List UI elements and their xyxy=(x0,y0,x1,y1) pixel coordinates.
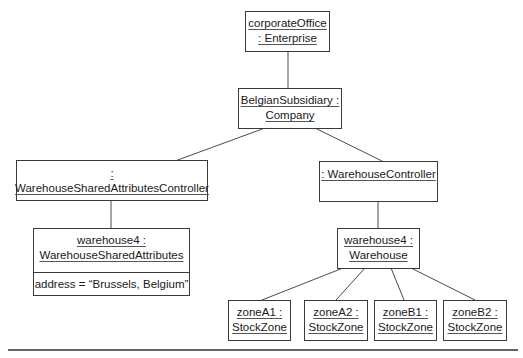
link-warehouse-to-zoneA2 xyxy=(336,268,365,300)
object-warehouse-shared-attributes: warehouse4 : WarehouseSharedAttributes a… xyxy=(33,228,190,296)
object-name: zoneB1 : xyxy=(378,305,433,320)
object-name: warehouse4 : xyxy=(39,233,183,248)
object-zone-b2: zoneB2 : StockZone xyxy=(443,300,507,341)
object-class: StockZone xyxy=(448,320,503,335)
link-warehouse-to-zoneB1 xyxy=(391,268,404,300)
object-class: Warehouse xyxy=(344,248,413,263)
object-name: warehouse4 : xyxy=(344,233,413,248)
link-warehouse-to-zoneB2 xyxy=(411,268,475,300)
object-warehouse-controller: : WarehouseController xyxy=(319,161,438,202)
object-belgian-subsidiary: BelgianSubsidiary : Company xyxy=(238,88,342,129)
object-warehouse: warehouse4 : Warehouse xyxy=(337,228,420,269)
object-corporate-office: corporateOffice : Enterprise xyxy=(245,11,330,52)
object-name: zoneB2 : xyxy=(448,305,503,320)
object-zone-a2: zoneA2 : StockZone xyxy=(304,300,368,341)
object-name: corporateOffice xyxy=(248,16,326,31)
object-class: StockZone xyxy=(309,320,364,335)
object-class: : Enterprise xyxy=(248,31,326,46)
object-name: zoneA1 : xyxy=(232,305,287,320)
link-warehouse-to-zoneA1 xyxy=(262,268,343,300)
object-shared-attributes-controller: : WarehouseSharedAttributesController xyxy=(16,160,208,201)
link-subsidiary-to-warehouse-controller xyxy=(315,128,382,161)
object-zone-b1: zoneB1 : StockZone xyxy=(374,300,437,341)
object-name: : WarehouseController xyxy=(321,167,436,182)
object-name: : WarehouseSharedAttributesController xyxy=(15,166,209,196)
object-name: BelgianSubsidiary : xyxy=(241,93,339,108)
object-class: WarehouseSharedAttributes xyxy=(39,248,183,263)
object-class: StockZone xyxy=(232,320,287,335)
caption-divider xyxy=(8,349,518,351)
object-class: Company xyxy=(241,108,339,123)
object-zone-a1: zoneA1 : StockZone xyxy=(228,300,291,341)
object-class: StockZone xyxy=(378,320,433,335)
attribute-address: address = “Brussels, Belgium” xyxy=(34,272,189,295)
object-name: zoneA2 : xyxy=(309,305,364,320)
link-subsidiary-to-shared-controller xyxy=(175,128,265,161)
